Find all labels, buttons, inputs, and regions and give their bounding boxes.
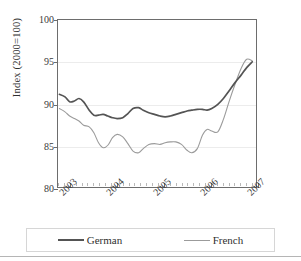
- chart-legend: German French: [26, 228, 275, 252]
- x-tick-minor: [187, 183, 188, 186]
- x-tick-minor: [99, 183, 100, 186]
- x-tick-minor: [140, 183, 141, 186]
- x-axis-labels: 20032004200520062007: [57, 190, 287, 232]
- x-tick-minor: [146, 183, 147, 186]
- x-tick-minor: [87, 183, 88, 186]
- legend-line-icon-german: [58, 239, 84, 241]
- x-tick-minor: [176, 183, 177, 186]
- y-axis-title: Index (2000=100): [11, 0, 22, 118]
- x-tick-minor: [199, 183, 200, 186]
- x-tick-minor: [93, 183, 94, 186]
- series-lines: [58, 20, 256, 187]
- y-tick-label: 85: [30, 142, 54, 152]
- y-tick-label: 100: [30, 15, 54, 25]
- x-tick-minor: [246, 183, 247, 186]
- legend-item-french[interactable]: French: [184, 235, 244, 246]
- x-tick-minor: [182, 183, 183, 186]
- x-tick-minor: [223, 183, 224, 186]
- x-tick-minor: [234, 183, 235, 186]
- x-tick-minor: [129, 183, 130, 186]
- bottom-divider: [0, 256, 301, 257]
- y-tick-label: 80: [30, 184, 54, 194]
- x-tick-minor: [105, 183, 106, 186]
- line-series-french: [59, 59, 252, 153]
- x-tick-minor: [240, 183, 241, 186]
- plot-area: 80859095100: [57, 19, 257, 188]
- legend-label-german: German: [87, 235, 122, 246]
- legend-item-german[interactable]: German: [58, 235, 122, 246]
- x-tick-minor: [58, 183, 59, 186]
- legend-line-icon-french: [184, 240, 210, 241]
- x-tick-minor: [229, 183, 230, 186]
- x-tick-minor: [82, 183, 83, 186]
- x-tick-minor: [134, 183, 135, 186]
- legend-label-french: French: [213, 235, 244, 246]
- y-tick-label: 95: [30, 57, 54, 67]
- x-tick-minor: [152, 183, 153, 186]
- line-series-german: [59, 62, 252, 119]
- x-tick-minor: [193, 183, 194, 186]
- y-tick-label: 90: [30, 100, 54, 110]
- chart-figure: Index (2000=100) 80859095100 20032004200…: [0, 0, 301, 261]
